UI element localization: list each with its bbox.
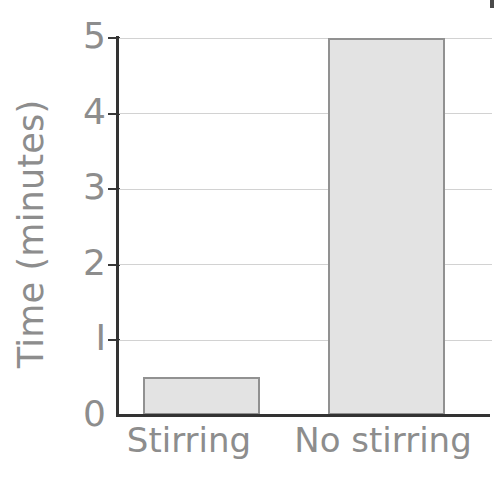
x-tick-label-stirring: Stirring — [118, 420, 260, 460]
bar-no-stirring[interactable] — [328, 38, 445, 415]
y-tick-label-0: 0 — [60, 396, 106, 432]
bar-stirring[interactable] — [143, 377, 260, 415]
y-tick-label-5: 5 — [60, 18, 106, 54]
y-tick-label-3: 3 — [60, 169, 106, 205]
y-tick-label-1: I — [60, 320, 106, 356]
y-axis-title-label: Time (minutes) — [11, 100, 51, 379]
x-axis-spine — [116, 414, 490, 417]
scan-artifact — [490, 0, 494, 8]
y-axis-spine — [116, 36, 119, 417]
y-tick-label-2: 2 — [60, 245, 106, 281]
x-tick-label-no-stirring: No stirring — [272, 420, 494, 460]
plot-area — [118, 38, 492, 415]
y-tick-label-4: 4 — [60, 94, 106, 130]
bar-chart-figure: Time (minutes) 5 4 3 2 I 0 Stirring No s… — [0, 0, 501, 478]
y-axis-tick-labels: 5 4 3 2 I 0 — [56, 0, 106, 478]
y-axis-title: Time (minutes) — [0, 0, 62, 478]
